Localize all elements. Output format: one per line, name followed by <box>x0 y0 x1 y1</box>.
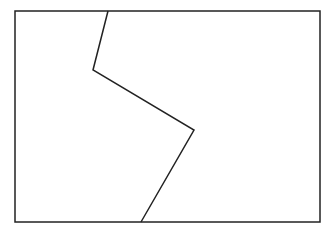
diagram-canvas <box>0 0 336 234</box>
frame-rectangle <box>15 11 320 222</box>
zigzag-divider-line <box>93 11 194 222</box>
